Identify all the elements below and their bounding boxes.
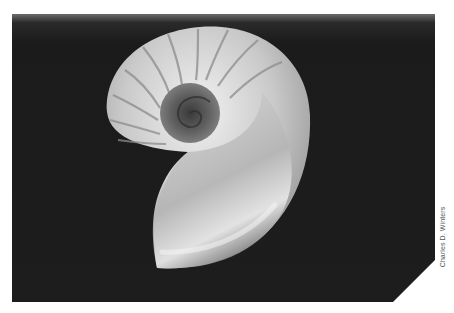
nautilus-photo-svg: [0, 0, 454, 313]
nautilus-photo: [0, 0, 454, 313]
photo-credit: Charles D. Winters: [439, 207, 446, 268]
clipped-caption-text: [16, 306, 436, 313]
